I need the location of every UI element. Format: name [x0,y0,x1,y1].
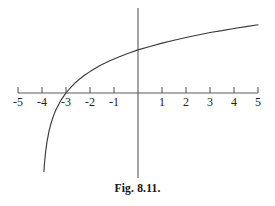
figure-container: -5 -4 -3 -2 -1 1 2 3 4 5 Fig. 8.11. [0,0,275,206]
x-tick-label-5: 5 [247,96,269,109]
x-tick-label--2: -2 [79,96,101,109]
x-tick-label-2: 2 [175,96,197,109]
x-tick-label-4: 4 [223,96,245,109]
axes-group [18,8,258,178]
figure-caption: Fig. 8.11. [0,182,275,194]
x-tick-label-3: 3 [199,96,221,109]
x-tick-label-1: 1 [151,96,173,109]
x-tick-label--3: -3 [55,96,77,109]
x-tick-label--1: -1 [103,96,125,109]
x-tick-label--4: -4 [31,96,53,109]
x-tick-label--5: -5 [7,96,29,109]
